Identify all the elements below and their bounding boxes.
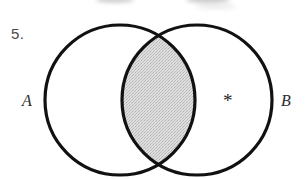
venn-diagram-canvas	[0, 0, 305, 179]
asterisk-marker: *	[223, 91, 233, 110]
set-a-label: A	[22, 93, 32, 109]
problem-number: 5.	[11, 26, 24, 41]
set-b-label: B	[281, 93, 291, 109]
venn-diagram-figure: 5. A * B	[0, 0, 305, 179]
